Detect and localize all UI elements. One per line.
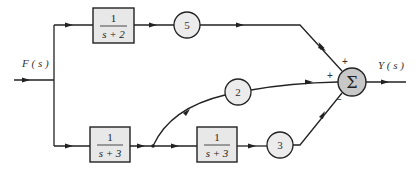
svg-text:s + 3: s + 3 — [206, 147, 229, 159]
svg-text:2: 2 — [235, 86, 241, 98]
gain-3-node: 3 — [267, 132, 293, 158]
svg-text:5: 5 — [184, 19, 190, 31]
output-signal — [366, 80, 406, 85]
sigma-icon: Σ — [346, 73, 357, 92]
gain-2-node: 2 — [225, 79, 251, 105]
svg-text:3: 3 — [277, 139, 283, 151]
svg-text:1: 1 — [107, 131, 113, 143]
output-label: Y ( s ) — [378, 59, 404, 72]
input-label: F ( s ) — [21, 57, 49, 70]
svg-text:1: 1 — [214, 131, 220, 143]
summing-junction: Σ + + − — [327, 56, 366, 105]
input-signal — [14, 78, 54, 83]
svg-text:s + 2: s + 2 — [102, 28, 125, 40]
sign-top: + — [342, 56, 348, 67]
sign-bottom: − — [336, 94, 342, 105]
gain-5-node: 5 — [174, 12, 200, 38]
svg-text:1: 1 — [111, 12, 117, 24]
sign-left: + — [327, 70, 333, 81]
svg-text:s + 3: s + 3 — [99, 147, 122, 159]
block-diagram: F ( s ) 1 s + 2 5 — [0, 0, 418, 172]
block-top-tf: 1 s + 2 — [93, 8, 134, 43]
block-bottom-tf-1: 1 s + 3 — [90, 127, 130, 162]
block-bottom-tf-2: 1 s + 3 — [197, 127, 237, 162]
